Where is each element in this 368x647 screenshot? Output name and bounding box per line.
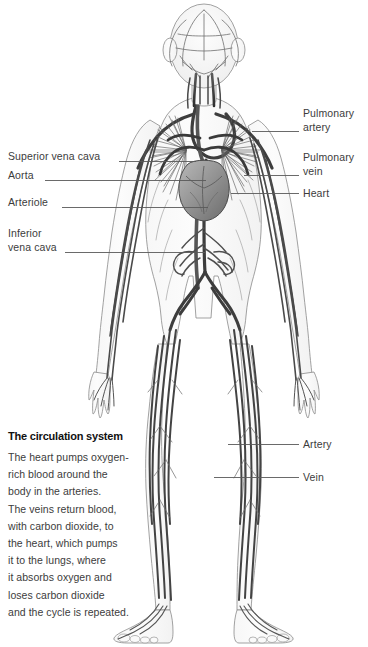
- heart: [179, 160, 229, 221]
- caption-body: The heart pumps oxygen- rich blood aroun…: [8, 449, 148, 621]
- label-pulmonary-artery: Pulmonary artery: [303, 107, 354, 134]
- label-vein: Vein: [303, 471, 324, 485]
- label-superior-vena-cava: Superior vena cava: [8, 150, 100, 164]
- label-heart: Heart: [303, 187, 329, 201]
- caption-block: The circulation system The heart pumps o…: [8, 430, 148, 621]
- label-arteriole: Arteriole: [8, 196, 48, 210]
- hand-vessels: [94, 378, 314, 410]
- label-pulmonary-vein: Pulmonary vein: [303, 151, 354, 178]
- label-aorta: Aorta: [8, 169, 34, 183]
- caption-title: The circulation system: [8, 430, 148, 442]
- label-artery: Artery: [303, 438, 332, 452]
- label-inferior-vena-cava: Inferior vena cava: [8, 227, 57, 254]
- circulation-system-figure: Superior vena cava Aorta Arteriole Infer…: [0, 0, 368, 647]
